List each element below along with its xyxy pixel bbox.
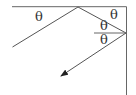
- incident-ray: [13, 7, 79, 47]
- angle-label-2: θ: [110, 7, 118, 22]
- angle-label-1: θ: [35, 9, 43, 24]
- angle-label-3: θ: [100, 18, 108, 33]
- angle-label-4: θ: [100, 32, 108, 47]
- reflection-diagram: θ θ θ θ: [0, 0, 136, 95]
- outgoing-ray: [61, 33, 126, 76]
